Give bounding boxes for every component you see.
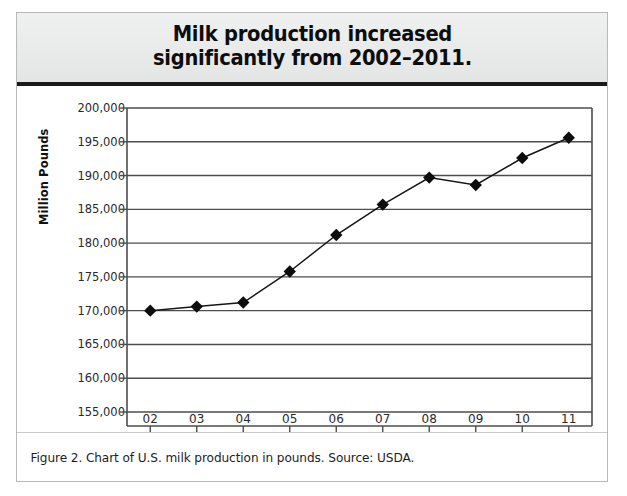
data-point-markers: [144, 132, 575, 317]
x-axis-tick-label: 11: [561, 412, 576, 426]
x-axis-tick-label: 05: [282, 412, 297, 426]
chart-title-band: Milk production increased significantly …: [17, 13, 607, 86]
line-chart-svg: [17, 90, 609, 435]
plot-canvas: [17, 90, 607, 435]
data-point-marker: [423, 171, 435, 183]
x-axis-tick-label: 02: [143, 412, 158, 426]
x-axis-tick-label: 08: [422, 412, 437, 426]
data-series-line: [150, 138, 569, 311]
x-axis-tick-labels: 02030405060708091011: [17, 412, 607, 432]
data-point-marker: [237, 296, 249, 308]
data-point-marker: [470, 179, 482, 191]
x-axis-tick-label: 07: [375, 412, 390, 426]
x-axis-tick-label: 09: [468, 412, 483, 426]
figure-caption: Figure 2. Chart of U.S. milk production …: [17, 450, 414, 465]
data-point-marker: [144, 304, 156, 316]
series-line-u-s-milk-production: [150, 138, 569, 311]
x-axis-tick-label: 06: [329, 412, 344, 426]
data-point-marker: [516, 152, 528, 164]
page-title: Milk production increased significantly …: [153, 23, 472, 72]
x-axis-tick-label: 04: [236, 412, 251, 426]
x-axis-tick-label: 03: [189, 412, 204, 426]
chart-area: Million Pounds 200,000195,000190,000185,…: [17, 90, 607, 435]
figure-caption-area: Figure 2. Chart of U.S. milk production …: [17, 432, 607, 481]
figure-container: Milk production increased significantly …: [16, 12, 608, 482]
x-axis-tick-label: 10: [515, 412, 530, 426]
